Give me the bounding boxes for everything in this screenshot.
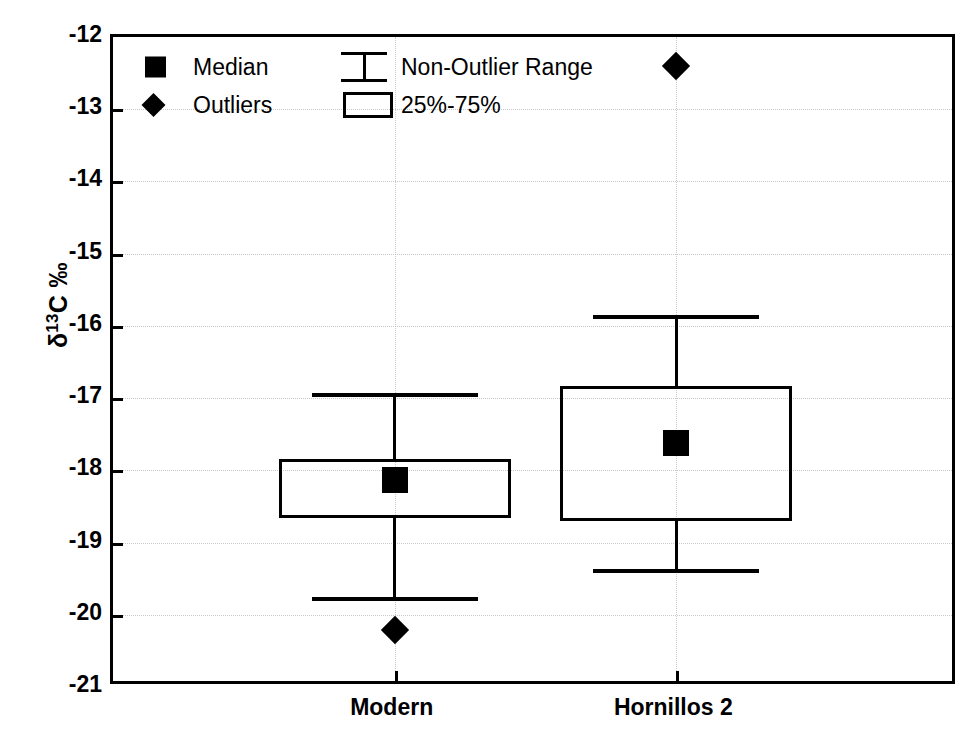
legend-marker-open-rectangle-icon — [343, 92, 393, 118]
whisker-line-upper — [675, 315, 678, 386]
legend-label-iqr: 25%-75% — [401, 92, 501, 119]
plot-inner — [113, 37, 952, 681]
legend-item-non_outlier_range: Non-Outlier Range — [133, 49, 563, 85]
legend-marker-i-beam-whisker-icon — [341, 52, 387, 82]
chart-legend: MedianOutliersNon-Outlier Range25%-75% — [133, 45, 563, 123]
median-marker — [663, 430, 689, 456]
y-axis-tick-label: -20 — [42, 598, 102, 625]
x-axis-tick-label-0: Modern — [350, 694, 433, 721]
y-axis-tick-label: -13 — [42, 93, 102, 120]
y-axis-tick-labels: -12-13-14-15-16-17-18-19-20-21 — [40, 0, 102, 746]
y-axis-tick-label: -12 — [42, 21, 102, 48]
y-axis-tick-label: -21 — [42, 671, 102, 698]
plot-area: MedianOutliersNon-Outlier Range25%-75% — [110, 34, 955, 684]
whisker-line-lower — [675, 521, 678, 569]
y-axis-tick-label: -15 — [42, 237, 102, 264]
y-axis-tick-label: -14 — [42, 165, 102, 192]
y-axis-tick-label: -18 — [42, 454, 102, 481]
y-axis-tick-label: -17 — [42, 382, 102, 409]
whisker-cap-upper — [593, 315, 759, 319]
outlier-marker — [662, 52, 690, 80]
y-axis-tick-label: -19 — [42, 526, 102, 553]
x-axis-tick-label-1: Hornillos 2 — [614, 694, 733, 721]
whisker-cap-lower — [593, 569, 759, 573]
legend-label-non_outlier_range: Non-Outlier Range — [401, 54, 593, 81]
boxplot-hornillos-2 — [113, 37, 952, 681]
chart-canvas: δ13C ‰ -12-13-14-15-16-17-18-19-20-21 Me… — [0, 0, 979, 746]
y-axis-tick-label: -16 — [42, 309, 102, 336]
legend-item-iqr: 25%-75% — [133, 87, 563, 123]
